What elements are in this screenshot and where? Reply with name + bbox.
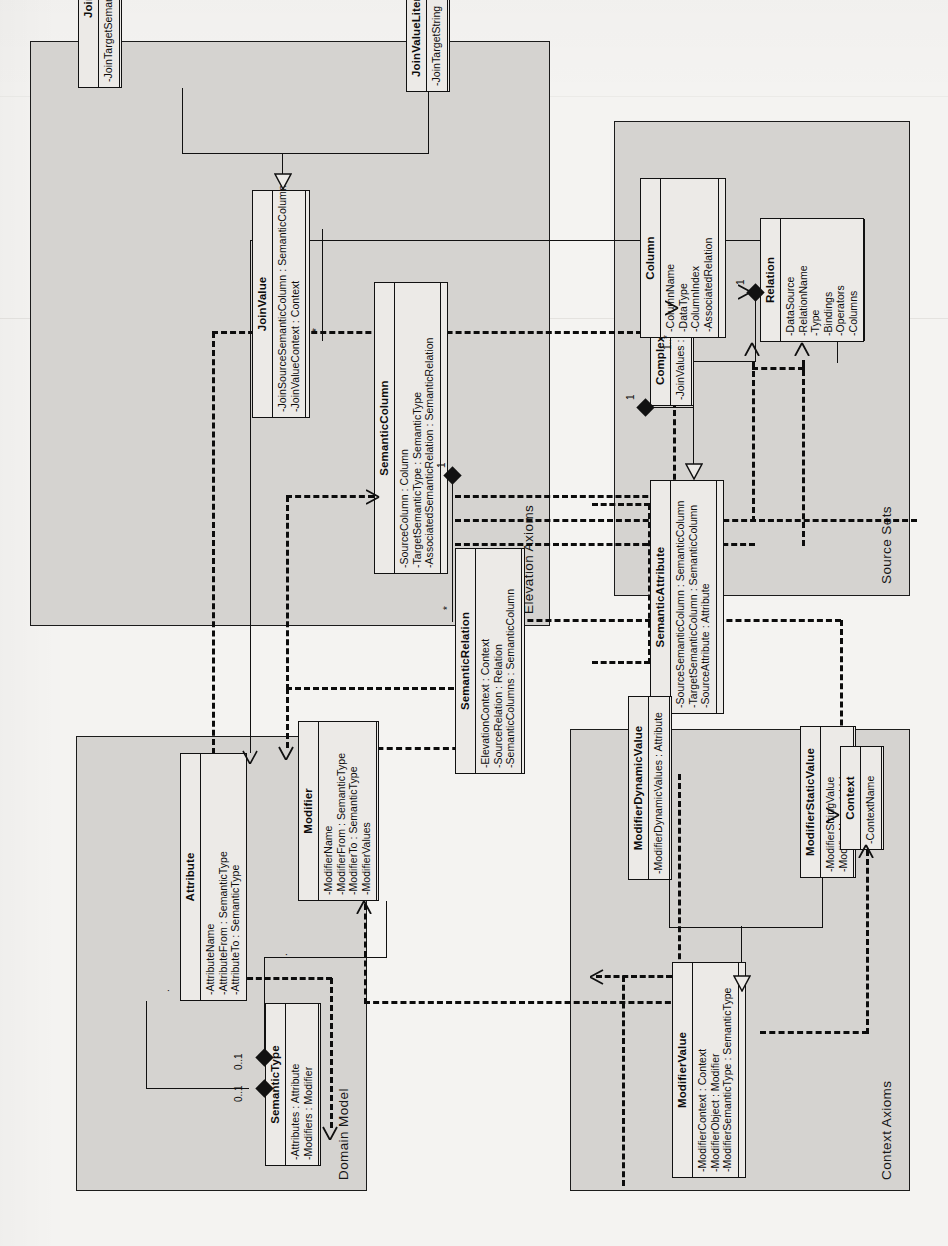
class-attr: -ModifierDynamicValues : Attribute xyxy=(652,701,665,874)
dep-semanticcolumn-c xyxy=(455,495,675,498)
class-operations-column xyxy=(719,179,728,337)
multiplicity-column-many: 1..* xyxy=(662,335,673,350)
arrowhead-dep-semanticcolumn xyxy=(366,489,380,505)
dep-modifier-horz xyxy=(364,904,367,1004)
arrowhead-dep-context-top xyxy=(826,807,840,823)
class-operations-modifier xyxy=(377,722,386,900)
class-operations-context xyxy=(882,747,891,849)
gen-modifierstaticvalue-vert xyxy=(741,927,823,928)
class-box-semantic-attribute[interactable]: SemanticAttribute -SourceSemanticColumn … xyxy=(650,480,724,714)
diagram-canvas: Domain Model Elevation Axioms Context Ax… xyxy=(0,0,948,1246)
class-operations-attribute xyxy=(247,754,256,1000)
class-box-context[interactable]: Context -ContextName xyxy=(840,746,884,850)
assoc-semantictype-attribute-horz xyxy=(146,1001,147,1089)
multiplicity-joinvalue-star: * xyxy=(311,328,322,332)
dep-semanticattribute-vert xyxy=(592,661,650,664)
assoc-semanticrelation-semanticcolumn-horz xyxy=(452,476,453,548)
class-box-semantic-type[interactable]: SemanticType -Attributes : Attribute -Mo… xyxy=(265,1003,321,1166)
class-box-join-value-literal[interactable]: JoinValueLiteral -JoinTargetString xyxy=(406,0,450,92)
arrowhead-attribute xyxy=(242,750,258,764)
class-attr: -ModifierObject : Modifier xyxy=(709,967,722,1172)
class-box-column[interactable]: Column -ColumnName -DataType -ColumnInde… xyxy=(640,178,726,338)
class-attr: -SourceAttribute : Attribute xyxy=(699,485,712,708)
dep-modifier-vert xyxy=(364,1001,680,1004)
class-box-modifier-dynamic-value[interactable]: ModifierDynamicValue -ModifierDynamicVal… xyxy=(628,696,672,880)
class-name-join-value: JoinValue xyxy=(253,191,273,417)
dep-attribute-horz xyxy=(286,688,289,748)
arrowhead-dep-modifiervalue xyxy=(590,969,604,985)
class-attributes-attribute: -AttributeName -AttributeFrom : Semantic… xyxy=(201,754,247,1000)
gen-modifierstaticvalue-horz xyxy=(822,878,823,928)
arrowhead-dep-semantictype xyxy=(322,1126,338,1140)
arrowhead-dep-relation-top xyxy=(738,284,752,300)
class-box-semantic-relation[interactable]: SemanticRelation -ElevationContext : Con… xyxy=(455,548,525,774)
class-operations-semantic-column xyxy=(441,283,450,573)
dep-semanticattribute-vert2 xyxy=(592,503,650,506)
class-attr: -ModifierValues xyxy=(360,726,373,895)
class-attr: -ModifierFrom : SemanticType xyxy=(335,726,348,895)
class-attr: -ModifierSemanticType : SemanticType xyxy=(721,967,734,1172)
class-box-modifier[interactable]: Modifier -ModifierName -ModifierFrom : S… xyxy=(298,721,379,901)
class-attr: -Columns xyxy=(847,223,860,336)
arrowhead-dep-attribute xyxy=(278,746,294,760)
dep-context-vert xyxy=(760,1031,868,1034)
class-operations-join-value-literal xyxy=(448,0,457,91)
class-attr: -ModifierStringValue xyxy=(824,731,837,872)
class-attributes-semantic-attribute: -SourceSemanticColumn : SemanticColumn -… xyxy=(671,481,717,713)
class-attr: -AttributeFrom : SemanticType xyxy=(217,758,230,995)
class-name-semantic-relation: SemanticRelation xyxy=(456,549,476,773)
package-label-context-axioms: Context Axioms xyxy=(879,1081,894,1180)
class-box-join-value[interactable]: JoinValue -JoinSourceSemanticColumn : Se… xyxy=(252,190,310,418)
multiplicity-complexsemanticattribute-one: 1 xyxy=(625,394,636,400)
class-box-join-value-column[interactable]: JoinValueColumn -JoinTargetSemanticColum… xyxy=(78,0,122,88)
gen-complexsemanticattribute-horz xyxy=(693,406,694,466)
class-box-modifier-value[interactable]: ModifierValue -ModifierContext : Context… xyxy=(672,962,746,1178)
class-attr: -AssociatedSemanticRelation : SemanticRe… xyxy=(423,287,436,568)
generalization-triangle-modifiervalue xyxy=(733,975,751,992)
class-name-join-value-column: JoinValueColumn xyxy=(79,0,99,87)
gen-joinvaluecolumn-horz xyxy=(182,88,183,154)
dep-into-semanticcolumn-vert xyxy=(286,495,374,498)
assoc-semantictype-modifier-horz2 xyxy=(386,901,387,958)
class-attributes-modifier: -ModifierName -ModifierFrom : SemanticTy… xyxy=(319,722,377,900)
class-name-attribute: Attribute xyxy=(181,754,201,1000)
class-box-semantic-column[interactable]: SemanticColumn -SourceColumn : Column -T… xyxy=(374,282,448,574)
class-attr: -ModifierTo : SemanticType xyxy=(347,726,360,895)
assoc-joinvalue-semanticcolumn-horz xyxy=(322,229,323,341)
class-attr: -Bindings xyxy=(822,223,835,336)
class-attr: -JoinValueContext : Context xyxy=(289,195,302,412)
class-operations-join-value xyxy=(306,191,315,417)
arrowhead-dep-column xyxy=(665,300,679,316)
class-operations-modifier-dynamic-value xyxy=(670,697,679,879)
multiplicity-dot-a: . xyxy=(160,989,171,992)
class-operations-relation xyxy=(865,219,874,341)
class-attributes-modifier-dynamic-value: -ModifierDynamicValues : Attribute xyxy=(649,697,670,879)
class-attr: -TargetSemanticColumn : SemanticColumn xyxy=(687,485,700,708)
arrowhead-dep-context-left xyxy=(858,844,874,858)
dep-into-semanticcolumn-horz xyxy=(286,496,289,690)
class-box-relation[interactable]: Relation -DataSource -RelationName -Type… xyxy=(760,218,864,342)
class-attributes-semantic-relation: -ElevationContext : Context -SourceRelat… xyxy=(476,549,522,773)
class-attr: -JoinTargetString xyxy=(430,0,443,86)
dep-modifiervalue-vert xyxy=(596,975,672,978)
dep-modifiervalue-horz xyxy=(622,976,625,1186)
class-attr: -AttributeName xyxy=(204,758,217,995)
class-box-attribute[interactable]: Attribute -AttributeName -AttributeFrom … xyxy=(180,753,247,1001)
class-attr: -RelationName xyxy=(797,223,810,336)
class-attributes-semantic-column: -SourceColumn : Column -TargetSemanticTy… xyxy=(395,283,441,573)
class-name-semantic-attribute: SemanticAttribute xyxy=(651,481,671,713)
class-attributes-semantic-type: -Attributes : Attribute -Modifiers : Mod… xyxy=(286,1004,319,1165)
multiplicity-semantictype-attribute: 0..1 xyxy=(233,1085,244,1102)
class-attr: -SourceColumn : Column xyxy=(398,287,411,568)
generalization-triangle-semanticattribute xyxy=(685,463,703,480)
class-operations-join-value-column xyxy=(120,0,129,87)
class-attr: -TargetSemanticType : SemanticType xyxy=(411,287,424,568)
dep-semantictype-horz xyxy=(330,978,333,1128)
class-operations-modifier-value xyxy=(739,963,748,1177)
class-name-modifier-dynamic-value: ModifierDynamicValue xyxy=(629,697,649,879)
class-attr: -ModifierContext : Context xyxy=(696,967,709,1172)
package-label-source-sets: Source Sets xyxy=(879,506,894,584)
class-attr: -Attributes : Attribute xyxy=(289,1008,302,1160)
gen-joinvalueliteral-horz xyxy=(428,92,429,154)
class-attr: -Operators xyxy=(834,223,847,336)
